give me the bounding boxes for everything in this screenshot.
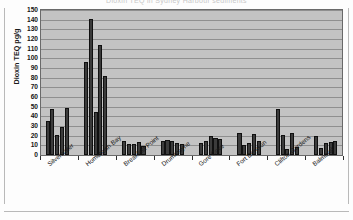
bar — [98, 45, 102, 155]
y-tick-label: 120 — [27, 36, 38, 42]
bar-group — [195, 10, 227, 155]
bar-group — [156, 10, 188, 155]
y-tick-label: 140 — [27, 17, 38, 23]
y-tick-label: 150 — [27, 7, 38, 13]
bar-group — [233, 10, 265, 155]
bar — [314, 136, 318, 155]
bar-series — [41, 10, 342, 155]
bar — [199, 143, 203, 155]
bar — [161, 141, 165, 155]
bar — [122, 141, 126, 156]
y-tick-label: 80 — [31, 75, 38, 81]
scan-edge-right — [348, 8, 349, 204]
y-tick-label: 100 — [27, 55, 38, 61]
y-tick-label: 130 — [27, 26, 38, 32]
y-tick-label: 30 — [31, 123, 38, 129]
scan-edge-left — [4, 8, 5, 204]
bar-group — [310, 10, 342, 155]
y-tick-label: 90 — [31, 65, 38, 71]
bar-group — [271, 10, 303, 155]
bar-group — [41, 10, 73, 155]
x-axis-category-labels: SilverwaterHomebush BayBreakfast PointDr… — [40, 158, 343, 214]
chart-title-remnant: Dioxin TEQ in Sydney Harbour sediments — [0, 0, 353, 5]
bar — [89, 19, 93, 155]
y-tick-label: 40 — [31, 113, 38, 119]
x-tick — [343, 156, 344, 160]
bar — [46, 121, 50, 155]
y-tick-label: 60 — [31, 94, 38, 100]
y-tick-label: 0 — [34, 152, 38, 158]
bar — [94, 112, 98, 156]
bar — [333, 141, 337, 156]
bar — [276, 109, 280, 155]
chart-figure: Dioxin TEQ in Sydney Harbour sediments D… — [0, 0, 353, 220]
bar — [237, 133, 241, 155]
y-axis-tick-labels: 1501401301201101009080706050403020100 — [18, 9, 38, 156]
bar — [50, 109, 54, 155]
y-tick-label: 110 — [27, 46, 38, 52]
bar-group — [79, 10, 111, 155]
y-tick-label: 70 — [31, 84, 38, 90]
plot-area — [40, 9, 343, 156]
y-tick-label: 10 — [31, 142, 38, 148]
bar-group — [118, 10, 150, 155]
y-tick-label: 20 — [31, 133, 38, 139]
y-tick-label: 50 — [31, 104, 38, 110]
bar — [84, 62, 88, 155]
